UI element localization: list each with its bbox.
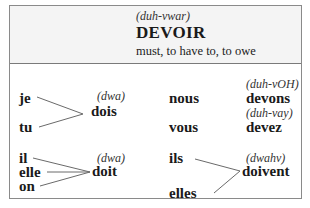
form-devez: devez (246, 119, 282, 136)
form-devons: devons (246, 90, 290, 107)
form-doivent: doivent (242, 163, 290, 180)
pronoun-nous: nous (169, 90, 199, 107)
form-doit: doit (92, 163, 117, 180)
pronoun-je: je (19, 90, 31, 107)
form-dois: dois (91, 103, 117, 120)
verb-card: (duh-vwar) DEVOIR must, to have to, to o… (9, 5, 302, 199)
pronoun-on: on (19, 178, 35, 195)
pronoun-elles: elles (169, 185, 197, 202)
dois-pronunciation: (dwa) (97, 89, 125, 104)
pronoun-ils: ils (169, 150, 183, 167)
pronoun-vous: vous (169, 119, 198, 136)
pronoun-tu: tu (19, 119, 32, 136)
